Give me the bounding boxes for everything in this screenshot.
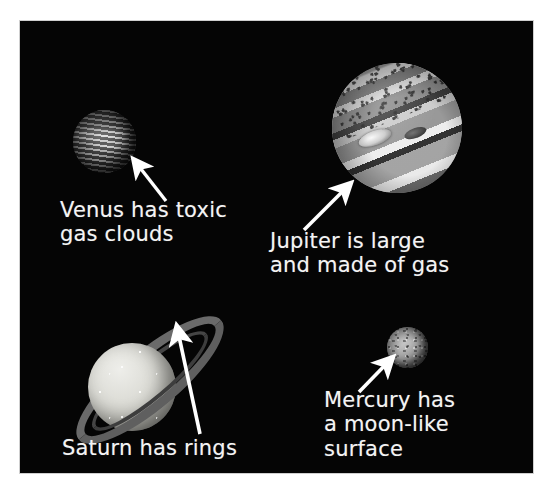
- space-scene-panel: Venus has toxic gas clouds Jupiter is la…: [20, 21, 533, 473]
- illustration-stage: Venus has toxic gas clouds Jupiter is la…: [0, 0, 556, 499]
- venus-arrow: [134, 160, 166, 201]
- saturn-arrow: [177, 327, 200, 434]
- mercury-arrow: [359, 358, 392, 392]
- jupiter-caption: Jupiter is large and made of gas: [270, 229, 533, 278]
- venus-caption: Venus has toxic gas clouds: [60, 198, 296, 247]
- mercury-caption: Mercury has a moon-like surface: [324, 388, 530, 461]
- saturn-caption: Saturn has rings: [62, 436, 308, 460]
- jupiter-arrow: [304, 184, 350, 230]
